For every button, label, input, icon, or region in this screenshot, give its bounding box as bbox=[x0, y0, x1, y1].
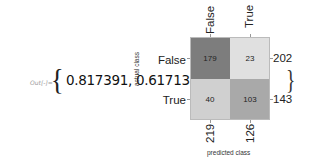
row-label-true: True bbox=[146, 94, 186, 106]
column-total-false: 219 bbox=[204, 124, 216, 143]
tick-mark bbox=[210, 34, 211, 37]
tick-mark bbox=[187, 99, 190, 100]
column-label-false: False bbox=[204, 6, 216, 34]
tick-mark bbox=[187, 58, 190, 59]
tick-mark bbox=[250, 34, 251, 37]
list-close-brace: } bbox=[286, 64, 295, 96]
tick-mark bbox=[250, 120, 251, 123]
tick-mark bbox=[210, 120, 211, 123]
y-axis-label: actual class bbox=[133, 52, 140, 86]
row-total-false: 202 bbox=[273, 52, 292, 64]
output-cell-label: Out[-]= bbox=[30, 79, 53, 86]
row-label-false: False bbox=[146, 54, 186, 66]
column-total-true: 126 bbox=[244, 124, 256, 143]
column-label-true: True bbox=[243, 5, 255, 28]
list-open-brace: { bbox=[51, 62, 64, 96]
x-axis-label: predicted class bbox=[207, 149, 250, 156]
plot-frame bbox=[190, 37, 270, 120]
